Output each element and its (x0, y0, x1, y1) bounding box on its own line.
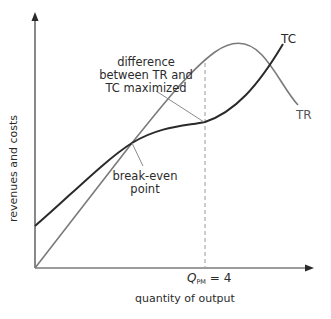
y-axis-arrow-icon (32, 12, 39, 21)
max-difference-leader-line (156, 91, 204, 122)
x-axis-label: quantity of output (135, 292, 235, 305)
break-even-annotation: break-even point (110, 170, 180, 196)
q-value: = 4 (210, 271, 232, 285)
x-axis-arrow-icon (305, 265, 314, 272)
max-difference-annotation: difference between TR and TC maximized (86, 56, 206, 95)
diagram-canvas (0, 0, 331, 319)
tc-curve-label: TC (281, 33, 296, 46)
tr-curve-label: TR (296, 109, 312, 122)
q-subscript: PM (196, 278, 206, 286)
break-even-line2: point (110, 183, 180, 196)
max-difference-line3: TC maximized (86, 82, 206, 95)
q-pm-label: QPM = 4 (187, 272, 231, 289)
y-axis-label: revenues and costs (7, 115, 20, 222)
break-even-leader-line (132, 143, 143, 166)
profit-maximization-diagram: revenues and costs quantity of output TC… (0, 0, 331, 319)
